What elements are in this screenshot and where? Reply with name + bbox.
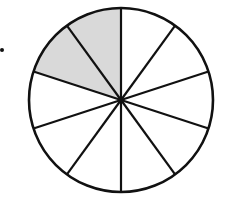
fraction-circle-diagram xyxy=(0,0,232,205)
center-point xyxy=(119,98,124,103)
